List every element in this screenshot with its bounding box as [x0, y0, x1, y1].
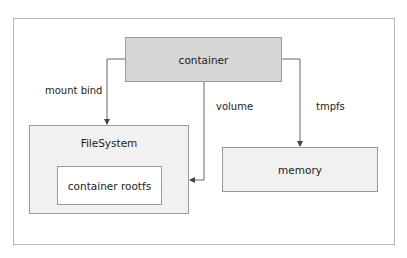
- container-rootfs-node: container rootfs: [57, 166, 162, 205]
- container-rootfs-label: container rootfs: [68, 180, 151, 192]
- container-node-label: container: [179, 54, 229, 66]
- tmpfs-label: tmpfs: [316, 101, 345, 112]
- tmpfs-arrow: [282, 59, 300, 146]
- memory-node-label: memory: [278, 164, 322, 176]
- filesystem-node-label: FileSystem: [30, 137, 188, 149]
- mount-bind-arrow: [107, 59, 125, 124]
- volume-arrow: [190, 82, 204, 180]
- memory-node: memory: [222, 147, 378, 192]
- filesystem-node: FileSystem container rootfs: [29, 125, 189, 214]
- volume-label: volume: [216, 101, 253, 112]
- mount-bind-label: mount bind: [45, 85, 102, 96]
- container-node: container: [125, 37, 282, 82]
